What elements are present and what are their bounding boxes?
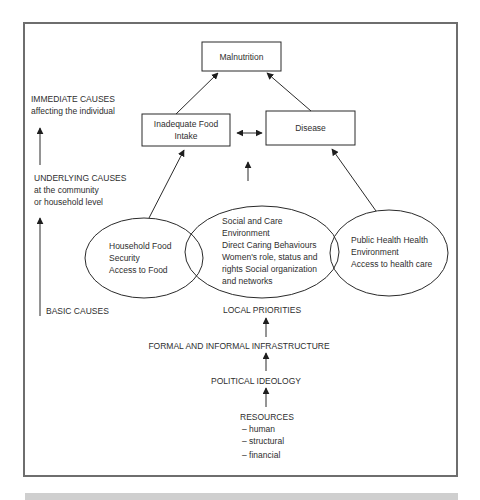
immediate-causes-heading: IMMEDIATE CAUSES [31, 93, 115, 105]
ellipse2-line6: and networks [222, 275, 317, 287]
ellipse1-line2: Security [109, 252, 171, 264]
arrow-intake-to-malnutrition [176, 73, 218, 114]
household-food-text: Household Food Security Access to Food [109, 240, 171, 276]
arrow-food-security-to-intake [149, 150, 184, 218]
ellipse1-line1: Household Food [109, 240, 171, 252]
malnutrition-label: Malnutrition [202, 42, 281, 71]
immediate-causes-sub: affecting the individual [31, 105, 115, 117]
ellipse3-line2: Environment [351, 246, 432, 258]
resource-structural: – structural [242, 435, 284, 447]
malnutrition-text: Malnutrition [220, 51, 264, 63]
ellipse3-line1: Public Health Health [351, 234, 432, 246]
resource-financial: – financial [242, 449, 280, 461]
arrow-disease-to-malnutrition [267, 73, 311, 111]
basic-causes-heading: BASIC CAUSES [46, 305, 109, 317]
ellipse2-line5: rights Social organization [222, 263, 317, 275]
political-ideology-label: POLITICAL IDEOLOGY [211, 375, 301, 387]
underlying-causes-sub1: at the community [34, 184, 99, 196]
public-health-text: Public Health Health Environment Access … [351, 234, 432, 270]
arrow-public-health-to-disease [332, 149, 376, 211]
local-priorities-label: LOCAL PRIORITIES [223, 304, 301, 316]
ellipse2-line4: Women's role, status and [222, 251, 317, 263]
ellipse3-line3: Access to health care [351, 258, 432, 270]
disease-label: Disease [266, 111, 355, 145]
infrastructure-label: FORMAL AND INFORMAL INFRASTRUCTURE [148, 340, 329, 352]
inadequate-food-intake-label: Inadequate Food Intake [142, 114, 230, 146]
ellipse1-line3: Access to Food [109, 264, 171, 276]
intake-line2: Intake [174, 130, 197, 142]
intake-line1: Inadequate Food [154, 118, 218, 130]
footer-bar [25, 493, 458, 500]
underlying-causes-heading: UNDERLYING CAUSES [34, 172, 126, 184]
resource-human: – human [242, 423, 275, 435]
underlying-causes-sub2: or household level [34, 196, 103, 208]
social-care-text: Social and Care Environment Direct Carin… [222, 215, 317, 287]
ellipse2-line3: Direct Caring Behaviours [222, 239, 317, 251]
ellipse2-line1: Social and Care [222, 215, 317, 227]
ellipse2-line2: Environment [222, 227, 317, 239]
resources-label: RESOURCES [240, 411, 294, 423]
disease-text: Disease [295, 122, 326, 134]
